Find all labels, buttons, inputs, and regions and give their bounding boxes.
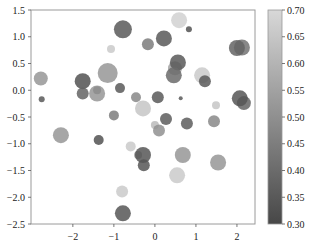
scatter-point bbox=[34, 72, 48, 86]
scatter-point bbox=[115, 83, 125, 93]
scatter-point bbox=[156, 30, 172, 46]
scatter-point bbox=[212, 101, 220, 109]
y-tick-label: 1.5 bbox=[13, 5, 26, 16]
scatter-point bbox=[131, 92, 141, 102]
scatter-point bbox=[142, 38, 154, 50]
scatter-chart: −2−1012 1.51.00.50.0−0.5−1.0−1.5−2.0−2.5… bbox=[0, 0, 311, 252]
x-tick-label: −2 bbox=[68, 231, 79, 242]
colorbar-tick-label: 0.60 bbox=[287, 58, 305, 69]
scatter-point bbox=[175, 147, 191, 163]
scatter-point bbox=[232, 90, 248, 106]
scatter-point bbox=[152, 91, 164, 103]
y-tick-label: 0.5 bbox=[13, 58, 26, 69]
colorbar-tick-label: 0.65 bbox=[287, 31, 305, 42]
scatter-point bbox=[109, 110, 119, 120]
scatter-point bbox=[77, 88, 89, 100]
x-tick-label: −1 bbox=[109, 231, 120, 242]
scatter-point bbox=[75, 73, 91, 89]
colorbar-tick-label: 0.50 bbox=[287, 112, 305, 123]
scatter-point bbox=[229, 40, 245, 56]
colorbar-tick-label: 0.35 bbox=[287, 192, 305, 203]
scatter-point bbox=[210, 155, 226, 171]
scatter-point bbox=[199, 75, 211, 87]
scatter-point bbox=[171, 12, 187, 28]
scatter-point bbox=[160, 113, 172, 125]
scatter-point bbox=[115, 205, 131, 221]
y-tick-label: −2.0 bbox=[7, 192, 25, 203]
colorbar-tick-label: 0.40 bbox=[287, 165, 305, 176]
scatter-point bbox=[169, 167, 185, 183]
scatter-point bbox=[114, 20, 132, 38]
scatter-point bbox=[53, 127, 69, 143]
x-tick-label: 0 bbox=[152, 231, 157, 242]
scatter-point bbox=[166, 67, 182, 83]
scatter-point bbox=[179, 96, 183, 100]
x-tick-label: 1 bbox=[193, 231, 198, 242]
colorbar bbox=[268, 10, 282, 224]
scatter-points bbox=[34, 12, 251, 221]
scatter-point bbox=[98, 63, 118, 83]
scatter-point bbox=[116, 185, 128, 197]
scatter-point bbox=[186, 26, 192, 32]
y-tick-label: −2.5 bbox=[7, 219, 25, 230]
scatter-point bbox=[126, 141, 136, 151]
colorbar-tick-label: 0.45 bbox=[287, 138, 305, 149]
scatter-point bbox=[181, 117, 193, 129]
scatter-point bbox=[208, 115, 220, 127]
y-tick-label: 1.0 bbox=[13, 31, 26, 42]
y-tick-label: −1.0 bbox=[7, 138, 25, 149]
y-tick-label: 0.0 bbox=[13, 85, 26, 96]
colorbar-tick-label: 0.30 bbox=[287, 219, 305, 230]
scatter-point bbox=[138, 159, 150, 171]
y-tick-label: −1.5 bbox=[7, 165, 25, 176]
scatter-point bbox=[153, 124, 165, 136]
x-axis: −2−1012 bbox=[68, 224, 240, 242]
y-axis: 1.51.00.50.0−0.5−1.0−1.5−2.0−2.5 bbox=[7, 5, 31, 230]
scatter-point bbox=[89, 86, 105, 102]
x-tick-label: 2 bbox=[234, 231, 239, 242]
y-tick-label: −0.5 bbox=[7, 112, 25, 123]
colorbar-tick-label: 0.55 bbox=[287, 85, 305, 96]
colorbar-axis: 0.700.650.600.550.500.450.400.350.30 bbox=[282, 5, 305, 230]
colorbar-tick-label: 0.70 bbox=[287, 5, 305, 16]
scatter-point bbox=[39, 96, 45, 102]
scatter-point bbox=[135, 100, 151, 116]
scatter-point bbox=[94, 135, 104, 145]
scatter-point bbox=[107, 45, 115, 53]
